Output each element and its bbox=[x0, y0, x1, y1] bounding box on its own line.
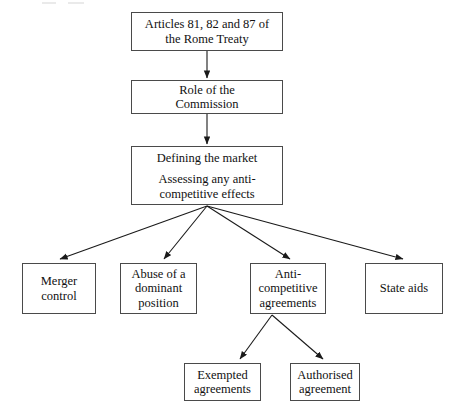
node-text-line: position bbox=[121, 296, 196, 310]
merger-control-box[interactable]: Mergercontrol bbox=[22, 263, 96, 314]
node-text-line: Merger bbox=[23, 274, 95, 288]
commission-box[interactable]: Role of theCommission bbox=[131, 80, 283, 114]
node-text-line: Authorised bbox=[291, 368, 359, 382]
node-text-line: agreements bbox=[251, 296, 325, 310]
node-text-line: Abuse of a bbox=[121, 267, 196, 281]
exempted-agreements-box[interactable]: Exemptedagreements bbox=[184, 363, 261, 401]
node-text-line: competitive effects bbox=[132, 187, 282, 201]
node-text-line: agreements bbox=[185, 382, 260, 396]
node-text-line: Commission bbox=[132, 97, 282, 111]
node-text-line: the Rome Treaty bbox=[132, 32, 282, 46]
flowchart-canvas: Articles 81, 82 and 87 ofthe Rome Treaty… bbox=[0, 0, 456, 410]
edge-market-to-stateaids bbox=[207, 206, 403, 259]
edge-market-to-anticompetitive bbox=[207, 206, 290, 259]
node-text-line: dominant bbox=[121, 281, 196, 295]
node-text-line: competitive bbox=[251, 281, 325, 295]
node-paragraph: Defining the market bbox=[132, 151, 282, 165]
state-aids-box[interactable]: State aids bbox=[365, 263, 443, 314]
authorised-agreement-box[interactable]: Authorisedagreement bbox=[290, 363, 360, 401]
node-text-line: Defining the market bbox=[132, 151, 282, 165]
market-assessment-box[interactable]: Defining the marketAssessing any anti-co… bbox=[131, 146, 283, 205]
node-paragraph: Assessing any anti-competitive effects bbox=[132, 172, 282, 201]
scan-artifact bbox=[68, 2, 84, 4]
node-text-line: Role of the bbox=[132, 83, 282, 97]
node-text-line: Exempted bbox=[185, 368, 260, 382]
node-text-line: agreement bbox=[291, 382, 359, 396]
node-text-line: control bbox=[23, 289, 95, 303]
edge-anticompetitive-to-exempted bbox=[240, 315, 272, 359]
flowchart-edges bbox=[0, 0, 456, 410]
edge-anticompetitive-to-authorised bbox=[272, 315, 323, 359]
anti-competitive-agreements-box[interactable]: Anti-competitiveagreements bbox=[250, 263, 326, 314]
scan-artifact bbox=[42, 2, 56, 4]
node-text-line: Assessing any anti- bbox=[132, 172, 282, 186]
articles-box[interactable]: Articles 81, 82 and 87 ofthe Rome Treaty bbox=[131, 12, 283, 51]
node-text-line: State aids bbox=[366, 281, 442, 295]
abuse-dominant-position-box[interactable]: Abuse of adominantposition bbox=[120, 263, 197, 314]
node-text-line: Anti- bbox=[251, 267, 325, 281]
node-text-line: Articles 81, 82 and 87 of bbox=[132, 17, 282, 31]
